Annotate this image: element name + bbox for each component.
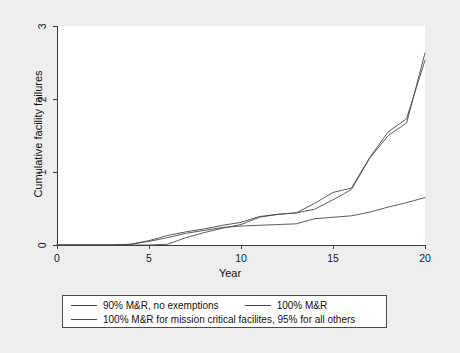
- x-tick-marks: [57, 245, 425, 249]
- legend-entry-100-mr[interactable]: 100% M&R: [245, 298, 328, 313]
- legend-line-icon: [245, 305, 271, 306]
- x-tick-label: 15: [318, 253, 348, 264]
- x-axis-title: Year: [0, 268, 460, 279]
- series-line-3: [57, 198, 425, 245]
- legend-row-2: 100% M&R for mission critical facilites,…: [63, 312, 386, 327]
- chart-figure: 0123 05101520 Cumulative facility failur…: [0, 0, 460, 353]
- x-tick-label: 0: [42, 253, 72, 264]
- x-tick-label: 20: [410, 253, 440, 264]
- legend: 90% M&R, no exemptions 100% M&R 100% M&R…: [62, 295, 387, 328]
- series-line-1: [57, 60, 425, 245]
- x-tick-label: 5: [134, 253, 164, 264]
- axes-group: [53, 26, 425, 249]
- series-line-2: [57, 53, 425, 245]
- legend-entry-90-mr[interactable]: 90% M&R, no exemptions: [71, 298, 219, 313]
- x-tick-label: 10: [226, 253, 256, 264]
- legend-line-icon: [71, 319, 97, 320]
- y-tick-label: 0: [37, 238, 48, 252]
- data-series-group: [57, 53, 425, 245]
- legend-label: 90% M&R, no exemptions: [103, 301, 219, 311]
- legend-label: 100% M&R for mission critical facilites,…: [103, 315, 355, 325]
- legend-label: 100% M&R: [277, 301, 328, 311]
- legend-line-icon: [71, 305, 97, 306]
- legend-entry-mission-critical[interactable]: 100% M&R for mission critical facilites,…: [71, 312, 355, 327]
- y-tick-marks: [53, 26, 57, 245]
- y-axis-title-wrapper: Cumulative facility failures: [28, 29, 46, 239]
- legend-row-1: 90% M&R, no exemptions 100% M&R: [63, 298, 386, 313]
- y-axis-title: Cumulative facility failures: [33, 70, 44, 197]
